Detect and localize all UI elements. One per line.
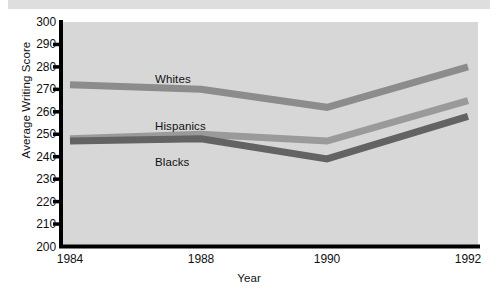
x-tick-label-1990: 1990: [297, 252, 357, 266]
series-label-hispanics: Hispanics: [155, 120, 206, 132]
series-label-blacks: Blacks: [155, 156, 189, 168]
series-label-whites: Whites: [155, 73, 191, 85]
chart-figure: Average Writing Score Year 3002902802702…: [0, 0, 498, 297]
x-tick-label-1984: 1984: [40, 252, 100, 266]
x-axis-tick-labels: 1984198819901992: [0, 0, 498, 297]
x-tick-label-1988: 1988: [171, 252, 231, 266]
x-tick-label-1992: 1992: [438, 252, 498, 266]
